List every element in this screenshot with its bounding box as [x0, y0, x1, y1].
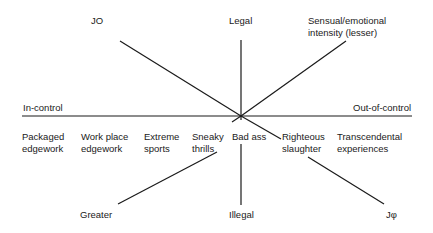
j-phi-label: Jφ [386, 209, 397, 221]
category-bad-ass: Bad ass [232, 131, 266, 143]
category-righteous-slaughter: Righteous slaughter [282, 131, 325, 154]
lesser-intensity-label: Sensual/emotional intensity (lesser) [308, 15, 386, 38]
category-packaged-edgework: Packaged edgework [22, 131, 64, 154]
out-of-control-label: Out-of-control [353, 102, 411, 114]
category-extreme-sports: Extreme sports [144, 131, 179, 154]
category-sneaky-thrills: Sneaky thrills [192, 131, 224, 154]
category-work-place-edgework: Work place edgework [81, 131, 128, 154]
j-phi-diagonal-line [308, 157, 384, 204]
category-transcendental-experiences: Transcendental experiences [337, 131, 402, 154]
greater-intensity-label: Greater [80, 209, 112, 221]
greater-intensity-diagonal-line [118, 152, 217, 204]
jo-label: JO [91, 15, 103, 27]
illegal-label: Illegal [229, 209, 254, 221]
in-control-label: In-control [23, 102, 63, 114]
lesser-intensity-diagonal-line [241, 41, 346, 116]
jo-diagonal-line [120, 41, 241, 116]
edgework-diagram: JO Legal Sensual/emotional intensity (le… [0, 0, 433, 233]
legal-label: Legal [229, 15, 252, 27]
sneaky-thrills-connector [232, 116, 241, 122]
